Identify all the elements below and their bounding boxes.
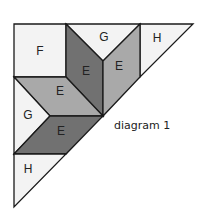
piece-h-bottom: [14, 154, 66, 207]
label-e-mid-left: E: [56, 84, 64, 98]
label-e-dark-upper: E: [82, 64, 90, 78]
label-h-bottom: H: [24, 162, 33, 176]
quilt-block-diagram: F G H E E E G E H diagram 1: [0, 0, 205, 224]
label-f: F: [36, 44, 43, 58]
diagram-caption: diagram 1: [114, 119, 170, 132]
label-g-top: G: [99, 30, 108, 44]
label-e-dark-lower: E: [57, 124, 65, 138]
label-e-mid-right: E: [115, 59, 123, 73]
label-g-left: G: [23, 108, 32, 122]
label-h-top: H: [153, 31, 162, 45]
piece-h-top: [140, 24, 193, 77]
